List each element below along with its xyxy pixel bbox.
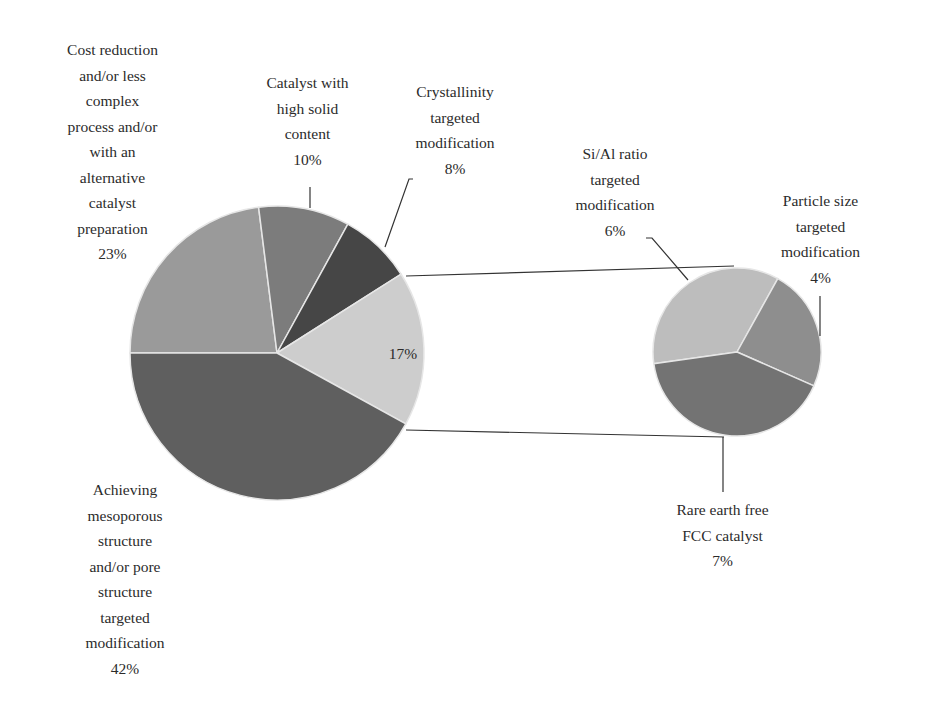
leader-line-crystal [385,179,413,247]
connector-line-top [406,266,734,276]
leader-line-sial [646,238,688,280]
connector-line-bottom [406,430,724,437]
label-cost-reduction: Cost reduction and/or less complex proce… [30,37,195,267]
label-other-17: 17% [378,341,428,367]
secondary-pie [653,268,821,436]
label-rare-earth-free: Rare earth free FCC catalyst 7% [655,497,790,574]
label-crystallinity: Crystallinity targeted modification 8% [395,79,515,181]
label-si-al-ratio: Si/Al ratio targeted modification 6% [555,141,675,243]
label-high-solid: Catalyst with high solid content 10% [245,70,370,172]
label-particle-size: Particle size targeted modification 4% [758,188,883,290]
label-mesoporous: Achieving mesoporous structure and/or po… [60,477,190,681]
